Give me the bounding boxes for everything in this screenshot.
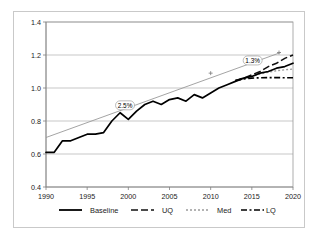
y-tick-label: 0.4 bbox=[31, 183, 41, 192]
annotation-2-5-percent: 2.5% bbox=[118, 102, 133, 109]
trend-line bbox=[46, 53, 281, 138]
chart-annotations: 2.5%1.3% bbox=[116, 56, 263, 110]
y-tick-label: 1.2 bbox=[31, 51, 41, 60]
legend-label-baseline: Baseline bbox=[90, 206, 118, 215]
x-tick-label: 2020 bbox=[285, 192, 301, 201]
annotation-1-3-percent: 1.3% bbox=[245, 57, 260, 64]
x-tick-label: 2010 bbox=[203, 192, 219, 201]
chart-frame: 0.40.60.81.01.21.4 199019952000200520102… bbox=[13, 11, 305, 228]
line-chart: 0.40.60.81.01.21.4 199019952000200520102… bbox=[14, 12, 306, 229]
y-tick-label: 1.0 bbox=[31, 84, 41, 93]
y-tick-label: 1.4 bbox=[31, 18, 41, 27]
x-axis-tick-labels: 1990199520002005201020152020 bbox=[38, 192, 301, 201]
y-axis-ticks bbox=[43, 22, 46, 187]
chart-plot-area: 0.40.60.81.01.21.4 199019952000200520102… bbox=[14, 12, 306, 229]
x-axis-ticks bbox=[46, 187, 293, 190]
x-tick-label: 1995 bbox=[79, 192, 95, 201]
legend-label-uq: UQ bbox=[162, 206, 173, 215]
x-tick-label: 2000 bbox=[120, 192, 136, 201]
gridlines bbox=[46, 22, 293, 154]
legend-label-lq: LQ bbox=[266, 206, 276, 215]
y-tick-label: 0.8 bbox=[31, 117, 41, 126]
y-axis-tick-labels: 0.40.60.81.01.21.4 bbox=[31, 18, 41, 192]
y-tick-label: 0.6 bbox=[31, 150, 41, 159]
plot-border bbox=[46, 22, 293, 187]
legend-label-med: Med bbox=[217, 206, 231, 215]
series-line-baseline bbox=[46, 63, 293, 152]
chart-legend: Baseline UQ Med LQ bbox=[59, 206, 276, 215]
x-tick-label: 2015 bbox=[244, 192, 260, 201]
x-tick-label: 1990 bbox=[38, 192, 54, 201]
x-tick-label: 2005 bbox=[162, 192, 178, 201]
